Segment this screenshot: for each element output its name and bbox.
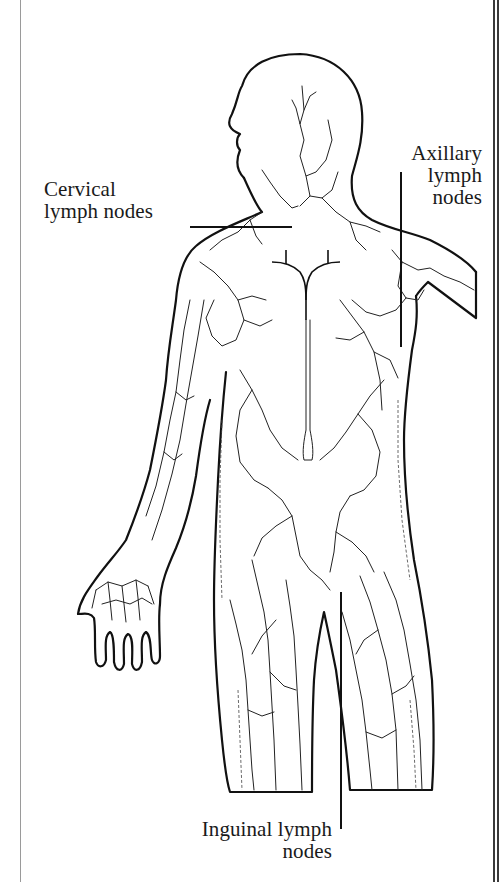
label-axillary-line2: lymph: [390, 164, 482, 186]
label-cervical-line1: Cervical: [44, 178, 153, 200]
label-inguinal-line2: nodes: [160, 840, 332, 862]
label-cervical-lymph-nodes: Cervical lymph nodes: [44, 178, 153, 222]
label-inguinal-lymph-nodes: Inguinal lymph nodes: [160, 818, 332, 862]
label-axillary-lymph-nodes: Axillary lymph nodes: [390, 142, 482, 208]
label-axillary-line3: nodes: [390, 186, 482, 208]
label-inguinal-line1: Inguinal lymph: [160, 818, 332, 840]
thoracic-duct: [272, 250, 340, 460]
label-axillary-line1: Axillary: [390, 142, 482, 164]
label-cervical-line2: lymph nodes: [44, 200, 153, 222]
lymphatic-system-figure: [0, 0, 500, 882]
